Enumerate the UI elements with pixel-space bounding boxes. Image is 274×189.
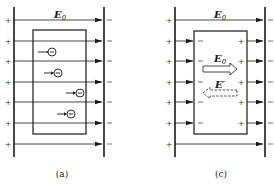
svg-text:+: + [166,16,173,25]
plus-charges: +++ ++++ [5,16,12,149]
svg-text:+: + [238,37,245,46]
panel-a: +++ ++++ E0 [5,7,112,179]
induced-positive-charges: +++ ++ [238,37,245,128]
applied-field-arrow [203,63,237,75]
electrons [38,48,84,118]
electron [44,69,62,77]
electron [66,89,84,97]
svg-text:+: + [5,37,12,46]
svg-text:+: + [238,98,245,107]
svg-text:+: + [5,140,12,149]
field-lines [14,20,102,144]
svg-text:+: + [166,98,173,107]
minus-charges [107,20,112,144]
svg-text:+: + [5,78,12,87]
svg-text:+: + [238,78,245,87]
svg-text:+: + [166,119,173,128]
svg-text:+: + [5,16,12,25]
inner-applied-field-label: E0 [213,53,227,66]
svg-text:+: + [5,119,12,128]
svg-text:+: + [166,78,173,87]
electron [38,48,56,56]
svg-text:+: + [166,140,173,149]
diagram-canvas: +++ ++++ E0 [0,0,274,189]
panel-c: +++ ++++ +++ ++ E0 E0 E′ (c) [166,7,273,179]
svg-text:+: + [166,37,173,46]
svg-text:+: + [5,98,12,107]
electron [57,110,75,118]
induced-field-label: E′ [214,79,226,90]
svg-text:+: + [5,57,12,66]
induced-negative-charges [198,41,203,123]
minus-charges [268,20,273,144]
caption-a: (a) [56,169,68,179]
caption-c: (c) [215,169,227,179]
svg-text:+: + [238,119,245,128]
svg-text:+: + [238,57,245,66]
plus-charges: +++ ++++ [166,16,173,149]
svg-text:+: + [166,57,173,66]
